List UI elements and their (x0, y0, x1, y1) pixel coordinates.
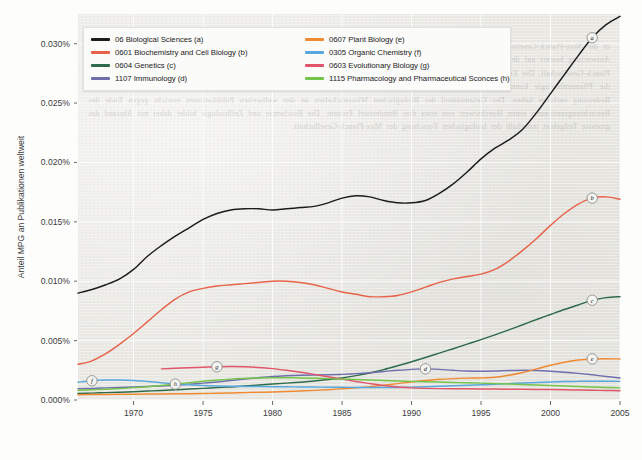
svg-text:1970: 1970 (124, 408, 143, 418)
y-axis-ticks: 0.000%0.005%0.010%0.015%0.020%0.025%0.03… (41, 39, 77, 405)
svg-text:0.015%: 0.015% (41, 217, 71, 227)
svg-text:0.000%: 0.000% (41, 395, 71, 405)
series-marker-c: c (587, 295, 597, 305)
svg-text:2005: 2005 (610, 408, 629, 418)
legend-label-d: 1107 Immunology (d) (115, 74, 187, 83)
y-axis-title: Anteil MPG an Publikationen weltweit (16, 135, 26, 278)
legend-item-e: 0607 Plant Biology (e) (305, 33, 510, 46)
legend-swatch-e (305, 38, 324, 41)
svg-text:1985: 1985 (332, 408, 351, 418)
svg-text:1975: 1975 (194, 408, 213, 418)
svg-text:1990: 1990 (402, 408, 421, 418)
svg-text:e: e (591, 355, 594, 362)
legend-swatch-d (91, 77, 110, 80)
legend-label-h: 1115 Pharmacology and Pharmaceutical Sco… (329, 74, 510, 83)
legend-swatch-g (305, 64, 324, 67)
series-marker-b: b (587, 193, 597, 203)
legend-label-e: 0607 Plant Biology (e) (329, 35, 405, 44)
svg-text:1980: 1980 (263, 408, 282, 418)
legend-swatch-b (91, 51, 110, 54)
legend-label-g: 0603 Evolutionary Biology (g) (329, 61, 429, 70)
legend-item-f: 0305 Organic Chemistry (f) (305, 46, 510, 59)
legend-swatch-f (305, 51, 324, 54)
series-marker-g: g (212, 362, 222, 372)
svg-text:b: b (591, 194, 594, 201)
legend: 06 Biological Sciences (a)0607 Plant Bio… (83, 27, 511, 91)
series-marker-h: h (170, 379, 180, 389)
legend-swatch-h (305, 77, 324, 80)
svg-text:0.020%: 0.020% (41, 157, 71, 167)
legend-item-h: 1115 Pharmacology and Pharmaceutical Sco… (305, 72, 510, 85)
legend-label-c: 0604 Genetics (c) (115, 61, 176, 70)
series-marker-a: a (587, 33, 597, 43)
legend-label-b: 0601 Biochemistry and Cell Biology (b) (115, 48, 247, 57)
series-marker-e: e (587, 354, 597, 364)
legend-item-c: 0604 Genetics (c) (91, 59, 305, 72)
svg-text:2000: 2000 (541, 408, 560, 418)
legend-label-a: 06 Biological Sciences (a) (115, 35, 203, 44)
legend-swatch-a (91, 38, 110, 41)
legend-swatch-c (91, 64, 110, 67)
x-axis-ticks: 19701975198019851990199520002005 (124, 401, 630, 418)
legend-item-d: 1107 Immunology (d) (91, 72, 305, 85)
legend-item-g: 0603 Evolutionary Biology (g) (305, 59, 510, 72)
legend-label-f: 0305 Organic Chemistry (f) (329, 48, 421, 57)
svg-text:a: a (591, 34, 594, 41)
svg-text:1995: 1995 (471, 408, 490, 418)
svg-text:c: c (591, 297, 594, 304)
svg-text:0.005%: 0.005% (41, 336, 71, 346)
svg-text:0.030%: 0.030% (41, 39, 71, 49)
svg-text:h: h (174, 380, 177, 387)
legend-item-a: 06 Biological Sciences (a) (91, 33, 305, 46)
svg-text:0.010%: 0.010% (41, 276, 71, 286)
legend-item-b: 0601 Biochemistry and Cell Biology (b) (91, 46, 305, 59)
chart-figure: in der Max-Planck-Gesellschaft sowie der… (0, 0, 642, 460)
series-marker-d: d (420, 364, 430, 374)
series-marker-f: f (87, 376, 97, 386)
svg-text:0.025%: 0.025% (41, 98, 71, 108)
